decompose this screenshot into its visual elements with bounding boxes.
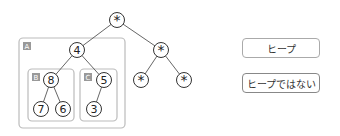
binary-tree-diagram: ABC*4*85**763 [0,0,340,136]
box-label: C [86,74,91,82]
node-label: * [181,72,188,88]
not-heap-button[interactable]: ヒープではない [242,73,320,93]
node-label: 4 [74,44,81,57]
node-label: 3 [91,103,98,116]
node-label: * [158,42,165,58]
node-label: * [114,12,121,28]
node-label: 8 [48,74,55,87]
node-label: 6 [60,103,67,116]
box-label: A [25,43,30,51]
node-label: 5 [101,74,108,87]
heap-button[interactable]: ヒープ [242,38,320,58]
node-label: * [138,72,145,88]
node-label: 7 [38,103,45,116]
box-label: B [34,74,39,82]
